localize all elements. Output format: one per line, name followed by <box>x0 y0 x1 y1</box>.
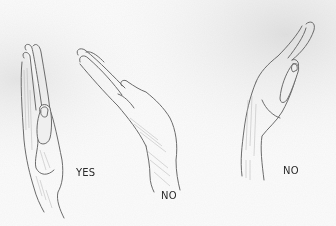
illustration-canvas: YES NO NO <box>0 0 336 226</box>
label-yes: YES <box>76 167 95 179</box>
label-no-right: NO <box>283 165 299 177</box>
label-no-middle: NO <box>161 190 177 202</box>
